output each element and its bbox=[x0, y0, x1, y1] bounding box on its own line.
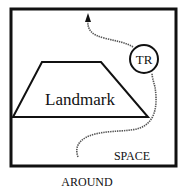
space-label: SPACE bbox=[114, 149, 150, 163]
trajector-label: TR bbox=[136, 52, 153, 67]
caption: AROUND bbox=[61, 175, 113, 189]
around-diagram: Landmark TR SPACE AROUND bbox=[0, 0, 186, 196]
landmark-label: Landmark bbox=[45, 90, 115, 109]
space-frame bbox=[11, 9, 176, 166]
trajector-path-upper bbox=[88, 20, 133, 47]
arrowhead-icon bbox=[85, 13, 91, 22]
trajector-path-lower bbox=[77, 73, 156, 157]
